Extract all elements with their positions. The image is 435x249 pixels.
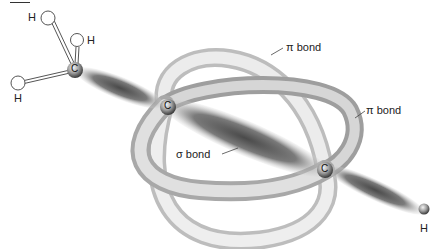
hydrogen-label-terminal: H [420,222,428,234]
hydrogen-atom-top-left [41,11,55,25]
carbon-label-center: C [164,100,171,111]
hydrogen-label-top-right: H [87,34,95,46]
sigma-bond-label: σ bond [176,148,210,160]
pi-bond-label-right: π bond [366,104,401,116]
hydrogen-label-left: H [14,92,22,104]
hydrogen-atom-terminal [419,204,430,215]
hydrogen-atom-top-right [71,34,84,47]
carbon-label-methyl: C [71,63,78,74]
c-c-methyl-lobe [71,60,168,116]
hydrogen-atom-left [11,76,25,90]
orbital-diagram: C C C H H H H π bond π bond σ bond [0,0,435,249]
hydrogen-label-top-left: H [28,11,36,23]
pi-bond-top-leader [271,48,283,55]
pi-bond-label-top: π bond [286,41,321,53]
orbital-drawing [0,0,435,249]
carbon-label-right: C [321,163,328,174]
c-h-lobe [322,158,428,222]
